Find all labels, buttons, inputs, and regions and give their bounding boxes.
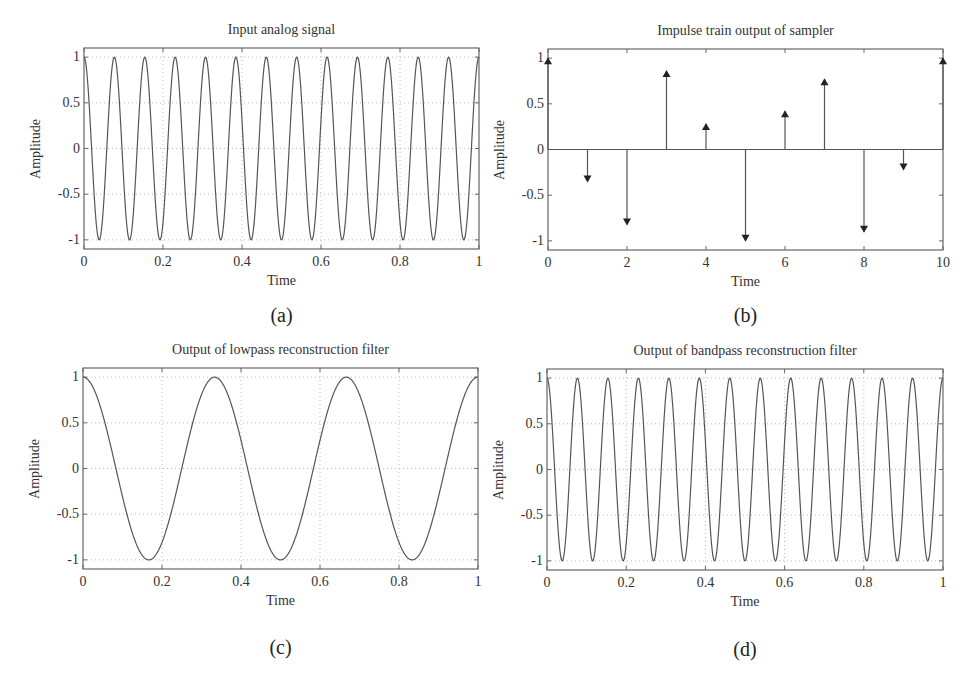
panel-d-plot-area [0,0,973,682]
